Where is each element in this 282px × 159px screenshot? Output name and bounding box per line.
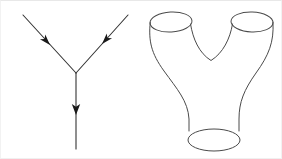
outer-left-contour (150, 23, 189, 132)
figure-container: String interaction: three-point vertex a… (0, 0, 282, 159)
saddle-curve (191, 24, 233, 61)
outer-right-contour (239, 23, 273, 132)
panel-feynman-vertex (23, 15, 128, 149)
bottom-opening-ellipse (188, 129, 240, 151)
figure-canvas (1, 1, 282, 159)
top-left-opening-ellipse (150, 11, 193, 33)
top-right-opening-ellipse (231, 11, 274, 32)
panel-pair-of-pants (150, 11, 274, 151)
